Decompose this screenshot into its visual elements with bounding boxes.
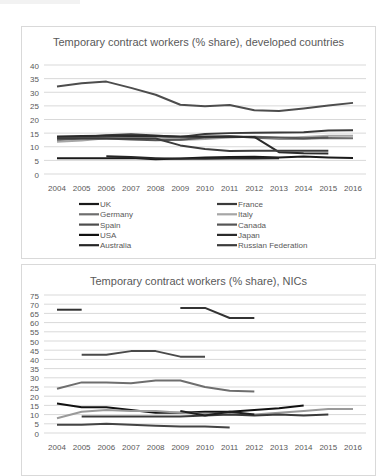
y-tick-label: 30 <box>30 89 39 98</box>
x-tick-label: 2015 <box>319 184 337 193</box>
y-tick-label: 35 <box>30 365 39 374</box>
y-tick-label: 45 <box>30 347 39 356</box>
x-tick-label: 2004 <box>48 443 66 452</box>
y-tick-label: 70 <box>30 301 39 310</box>
y-tick-label: 20 <box>30 116 39 125</box>
x-tick-label: 2012 <box>245 184 263 193</box>
series-line <box>57 424 230 428</box>
y-tick-label: 5 <box>35 157 40 166</box>
x-tick-label: 2004 <box>48 184 66 193</box>
x-tick-label: 2013 <box>270 184 288 193</box>
x-tick-label: 2011 <box>221 184 239 193</box>
x-tick-label: 2014 <box>295 184 313 193</box>
y-tick-label: 10 <box>30 411 39 420</box>
legend-label: Germany <box>100 210 133 219</box>
legend-label: UK <box>100 200 112 209</box>
plot-nics: 0510152025303540455055606570752004200520… <box>22 265 375 475</box>
y-tick-label: 75 <box>30 292 39 301</box>
x-tick-label: 2016 <box>344 184 362 193</box>
legend-label: Russian Federation <box>238 241 307 250</box>
series-line <box>57 82 353 111</box>
y-tick-label: 40 <box>30 62 39 71</box>
y-tick-label: 25 <box>30 102 39 111</box>
x-tick-label: 2007 <box>122 443 140 452</box>
x-tick-label: 2008 <box>147 184 165 193</box>
chart-developed: Temporary contract workers (% share), de… <box>21 26 376 259</box>
y-tick-label: 25 <box>30 384 39 393</box>
x-tick-label: 2005 <box>73 443 91 452</box>
legend-label: Canada <box>238 221 267 230</box>
x-tick-label: 2013 <box>270 443 288 452</box>
y-tick-label: 35 <box>30 75 39 84</box>
x-tick-label: 2014 <box>295 443 313 452</box>
y-tick-label: 30 <box>30 374 39 383</box>
x-tick-label: 2010 <box>196 184 214 193</box>
x-tick-label: 2010 <box>196 443 214 452</box>
y-tick-label: 0 <box>35 171 40 180</box>
y-tick-label: 5 <box>35 420 40 429</box>
x-tick-label: 2012 <box>245 443 263 452</box>
x-tick-label: 2006 <box>97 443 115 452</box>
x-tick-label: 2011 <box>221 443 239 452</box>
legend-label: Japan <box>238 231 260 240</box>
legend-label: Australia <box>100 241 132 250</box>
chart-nics: Temporary contract workers (% share), NI… <box>21 264 376 476</box>
y-tick-label: 40 <box>30 356 39 365</box>
plot-developed: 0510152025303540200420052006200720082009… <box>22 27 375 258</box>
y-tick-label: 50 <box>30 338 39 347</box>
y-tick-label: 15 <box>30 402 39 411</box>
y-tick-label: 65 <box>30 310 39 319</box>
y-tick-label: 0 <box>35 430 40 439</box>
x-tick-label: 2007 <box>122 184 140 193</box>
y-tick-label: 15 <box>30 130 39 139</box>
x-tick-label: 2005 <box>73 184 91 193</box>
y-tick-label: 60 <box>30 319 39 328</box>
legend-label: USA <box>100 231 117 240</box>
x-tick-label: 2008 <box>147 443 165 452</box>
y-tick-label: 10 <box>30 143 39 152</box>
legend-label: Spain <box>100 221 120 230</box>
top-strip <box>0 0 80 4</box>
x-tick-label: 2006 <box>97 184 115 193</box>
x-tick-label: 2009 <box>171 184 189 193</box>
y-tick-label: 55 <box>30 328 39 337</box>
y-tick-label: 20 <box>30 393 39 402</box>
legend-label: Italy <box>238 210 253 219</box>
series-line <box>57 381 254 392</box>
x-tick-label: 2009 <box>171 443 189 452</box>
x-tick-label: 2016 <box>344 443 362 452</box>
legend-label: France <box>238 200 263 209</box>
x-tick-label: 2015 <box>319 443 337 452</box>
series-line <box>82 351 205 357</box>
